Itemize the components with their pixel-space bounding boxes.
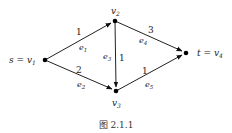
node-v4 [184, 51, 189, 56]
name-e1: e1 [79, 43, 87, 53]
weight-e3: 1 [119, 53, 125, 63]
node-label-v1: s = v1 [9, 55, 36, 66]
node-v2 [113, 19, 118, 24]
weight-e4: 3 [148, 25, 154, 35]
node-v3 [114, 89, 119, 94]
network-diagram: s = v1 v2 v3 t = v4 1 2 1 3 1 e1 e2 e3 e… [0, 0, 232, 133]
node-label-v2: v2 [111, 6, 120, 17]
weight-e1: 1 [76, 27, 82, 37]
weight-e5: 1 [142, 66, 148, 76]
node-label-v3: v3 [112, 98, 121, 109]
name-e5: e5 [145, 80, 154, 90]
weight-e2: 2 [76, 65, 82, 75]
figure-caption: 图 2.1.1 [99, 120, 134, 130]
edge-e3 [115, 21, 116, 87]
name-e4: e4 [139, 36, 148, 46]
node-v1 [43, 58, 48, 63]
name-e3: e3 [103, 52, 112, 62]
name-e2: e2 [77, 80, 86, 90]
node-label-v4: t = v4 [197, 48, 223, 59]
